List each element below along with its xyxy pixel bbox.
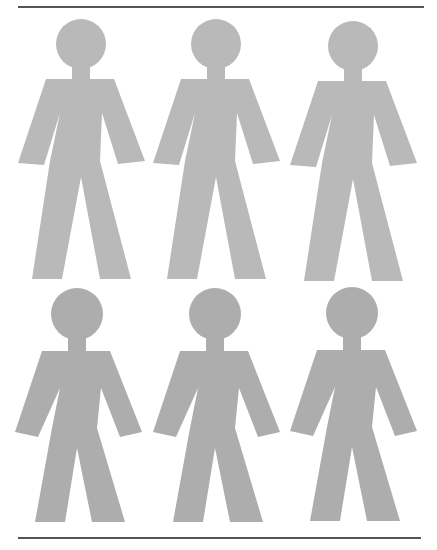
bottom-rule-divider <box>18 537 421 539</box>
row-top <box>18 19 417 281</box>
person-icon <box>290 21 417 281</box>
person-icon <box>18 19 145 279</box>
person-icon <box>290 287 417 521</box>
person-icon <box>153 288 280 522</box>
person-icon <box>15 288 142 522</box>
row-bottom <box>15 287 417 522</box>
pictogram-grid <box>0 0 437 550</box>
person-icon <box>153 19 280 279</box>
